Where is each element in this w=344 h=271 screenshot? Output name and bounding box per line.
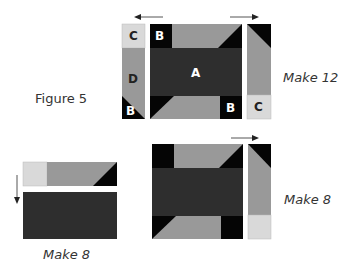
piece-label-c: C [254,100,263,114]
press-arrow-down-icon [14,175,20,204]
piece-label-c: C [129,29,138,43]
press-arrow-right-icon [230,14,259,20]
quantity-label-bottom-right: Make 8 [284,192,331,207]
piece-label-b: B [226,101,235,115]
bottom-right-strip [248,144,271,239]
press-arrow-right-icon-2 [231,135,259,141]
quantity-label-top: Make 12 [283,70,338,85]
bottom-left-strip [23,162,117,186]
bottom-right-block [152,144,243,239]
press-arrow-left-icon [134,14,163,20]
quantity-label-bottom-left: Make 8 [43,247,90,262]
piece-label-d: D [128,72,138,86]
bottom-left-rectangle [23,192,117,239]
piece-label-a: A [191,66,200,80]
piece-label-b: B [155,29,164,43]
quilt-diagram [0,0,344,271]
piece-label-b: B [126,104,135,118]
